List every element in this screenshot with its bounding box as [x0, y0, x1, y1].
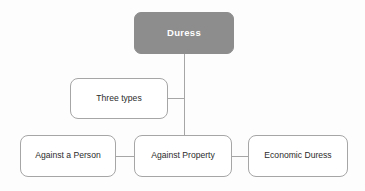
connector-against-property-to-economic-duress [232, 156, 248, 157]
node-economic-duress[interactable]: Economic Duress [248, 135, 348, 177]
node-duress[interactable]: Duress [134, 12, 234, 54]
connector-duress-to-against-property [184, 54, 185, 135]
node-against-property[interactable]: Against Property [134, 135, 232, 177]
diagram-canvas: Duress Three types Against a Person Agai… [0, 0, 365, 191]
node-three-types-label: Three types [92, 94, 145, 104]
node-against-a-person-label: Against a Person [31, 151, 104, 161]
node-economic-duress-label: Economic Duress [260, 151, 335, 161]
connector-against-a-person-to-against-property [116, 156, 134, 157]
node-three-types[interactable]: Three types [70, 78, 168, 119]
node-against-property-label: Against Property [147, 151, 219, 161]
node-against-a-person[interactable]: Against a Person [20, 135, 116, 177]
node-duress-label: Duress [163, 28, 205, 39]
connector-three-types-to-trunk [168, 98, 184, 99]
